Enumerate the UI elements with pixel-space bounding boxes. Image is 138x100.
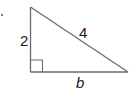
hypotenuse-label: 4 <box>79 24 87 41</box>
right-triangle-diagram: 2 4 b <box>0 0 138 100</box>
vertical-leg-label: 2 <box>20 32 28 49</box>
horizontal-leg-label: b <box>76 74 84 91</box>
right-angle-marker <box>31 60 43 72</box>
item-marker-dot <box>1 14 3 16</box>
